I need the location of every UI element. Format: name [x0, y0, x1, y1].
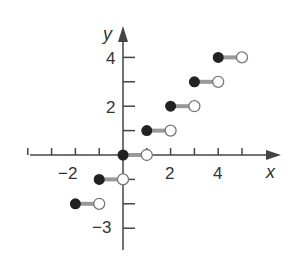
- open-endpoint: [165, 125, 176, 136]
- step-segment: [189, 76, 224, 87]
- x-tick-label-neg2: −2: [58, 164, 77, 183]
- step-function-chart: y x −2 2 4 4 2 −3: [0, 0, 299, 256]
- x-axis: [30, 150, 281, 160]
- open-endpoint: [141, 150, 152, 161]
- step-segment: [118, 150, 153, 161]
- open-endpoint: [189, 101, 200, 112]
- step-segment: [141, 125, 176, 136]
- closed-endpoint: [70, 198, 81, 209]
- x-tick-label-2: 2: [165, 164, 174, 183]
- y-axis: [118, 26, 128, 250]
- open-endpoint: [94, 198, 105, 209]
- step-segment: [94, 174, 129, 185]
- step-segment: [213, 52, 248, 63]
- closed-endpoint: [141, 125, 152, 136]
- y-tick-label-neg3: −3: [92, 218, 111, 237]
- step-segments: [70, 52, 248, 209]
- x-axis-arrow-icon: [266, 150, 281, 160]
- x-tick-label-4: 4: [213, 164, 222, 183]
- closed-endpoint: [118, 150, 129, 161]
- closed-endpoint: [165, 101, 176, 112]
- step-segment: [70, 198, 105, 209]
- open-endpoint: [237, 52, 248, 63]
- closed-endpoint: [213, 52, 224, 63]
- y-axis-arrow-icon: [118, 26, 128, 42]
- open-endpoint: [213, 76, 224, 87]
- step-segment: [165, 101, 200, 112]
- closed-endpoint: [94, 174, 105, 185]
- closed-endpoint: [189, 76, 200, 87]
- y-tick-label-2: 2: [106, 98, 115, 117]
- open-endpoint: [118, 174, 129, 185]
- y-tick-label-4: 4: [106, 49, 115, 68]
- y-axis-label: y: [101, 24, 113, 44]
- x-axis-label: x: [265, 162, 276, 182]
